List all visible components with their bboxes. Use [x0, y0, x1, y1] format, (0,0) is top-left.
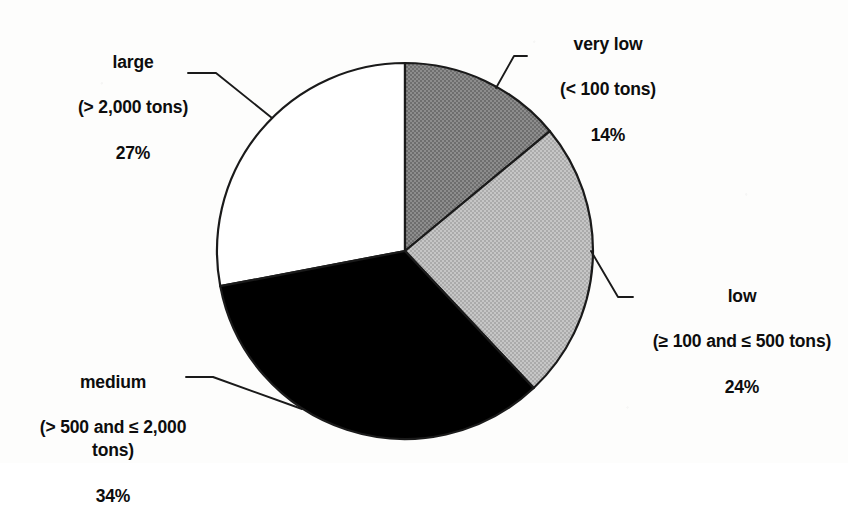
slice-label-very-low-name: very low — [528, 33, 688, 56]
slice-label-low-pct: 24% — [636, 376, 848, 399]
leader-line-low — [591, 251, 633, 297]
slice-label-low-range: (≥ 100 and ≤ 500 tons) — [636, 330, 848, 353]
slice-label-large-name: large — [48, 51, 218, 74]
slice-label-medium-name: medium — [6, 371, 220, 394]
slice-label-large-pct: 27% — [48, 142, 218, 165]
slice-label-low-name: low — [636, 285, 848, 308]
leader-line-very-low — [496, 56, 527, 88]
slice-label-very-low-range: (< 100 tons) — [528, 78, 688, 101]
slice-label-medium: medium (> 500 and ≤ 2,000 tons) 34% — [6, 348, 220, 506]
slice-label-low: low (≥ 100 and ≤ 500 tons) 24% — [636, 262, 848, 421]
slice-label-medium-range: (> 500 and ≤ 2,000 tons) — [6, 416, 220, 462]
slice-label-very-low-pct: 14% — [528, 124, 688, 147]
slice-label-very-low: very low (< 100 tons) 14% — [528, 10, 688, 169]
slice-label-large-range: (> 2,000 tons) — [48, 96, 218, 119]
slice-label-medium-pct: 34% — [6, 485, 220, 506]
slice-label-large: large (> 2,000 tons) 27% — [48, 28, 218, 187]
